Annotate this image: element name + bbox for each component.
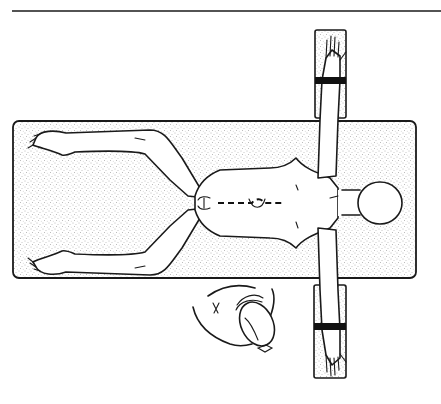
surgical-positioning-diagram [0, 0, 441, 404]
strap-lower [314, 323, 346, 330]
neck [338, 190, 360, 216]
surgeon-top-view [193, 286, 281, 352]
strap-upper [315, 77, 346, 84]
patient-head [358, 182, 402, 224]
